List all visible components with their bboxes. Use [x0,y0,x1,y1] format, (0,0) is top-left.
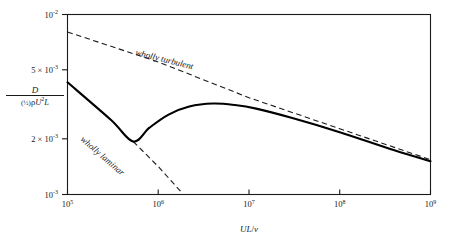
y-tick-label-1e-3: 10-3 [45,189,59,200]
annotation-wholly-turbulent: wholly turbulent [135,47,195,71]
x-tick-label-1e9: 109 [425,199,437,210]
y-tick-label-2e-3: 2 × 10-3 [31,133,58,144]
y-axis-title-numerator: D [6,86,64,95]
series-wholly-laminar-extension [133,142,181,193]
y-tick-label-1e-2: 10-2 [45,9,59,20]
x-tick-label-1e8: 108 [334,199,346,210]
chart-canvas: 10-2 5 × 10-3 2 × 10-3 10-3 105 106 107 … [0,0,452,245]
y-axis-title-denominator: (½)ρU2L [6,95,64,107]
x-axis-ticks [68,190,431,195]
y-axis-title: D (½)ρU2L [6,86,64,108]
drag-coefficient-chart: 10-2 5 × 10-3 2 × 10-3 10-3 105 106 107 … [0,0,452,245]
x-tick-label-1e6: 106 [152,199,164,210]
x-axis-title: UL/ν [240,224,258,234]
annotation-wholly-laminar: wholly laminar [79,134,127,178]
y-tick-label-5e-3: 5 × 10-3 [31,64,58,75]
x-tick-label-1e5: 105 [62,199,74,210]
x-tick-label-1e7: 107 [243,199,255,210]
series-transitional-drag-curve [68,82,431,161]
series-wholly-turbulent [68,32,431,160]
